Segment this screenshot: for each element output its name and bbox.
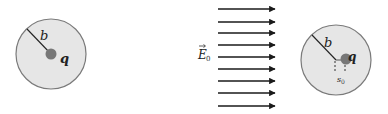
point-charge	[46, 49, 57, 60]
uniform-field-arrows	[218, 9, 275, 106]
radius-label: b	[40, 28, 48, 43]
right-sphere: b q s 0	[301, 25, 371, 95]
offset-subscript: 0	[341, 78, 345, 85]
radius-label: b	[324, 35, 332, 50]
charge-label: q	[348, 50, 356, 64]
field-subscript: 0	[206, 55, 210, 63]
diagram-canvas: b q E 0 b q s 0	[0, 0, 388, 114]
field-label: E 0	[197, 45, 210, 64]
charge-label: q	[60, 51, 69, 66]
left-sphere: b q	[16, 19, 86, 89]
